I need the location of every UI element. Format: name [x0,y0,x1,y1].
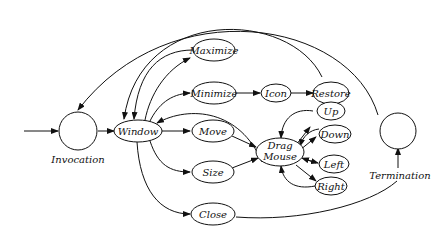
svg-text:Right: Right [316,181,346,192]
node-move: Move [192,120,234,142]
node-termination [380,113,416,149]
node-close: Close [191,203,235,225]
svg-text:Up: Up [324,106,339,117]
svg-text:Restore: Restore [310,88,350,99]
edge-dragmouse-right [296,165,316,181]
svg-text:Minimize: Minimize [190,88,238,99]
node-icon: Icon [261,84,291,102]
edge-up-dragmouse [281,110,313,138]
node-drag-mouse: Drag Mouse [256,138,304,166]
svg-text:Maximize: Maximize [189,45,239,56]
svg-text:Icon: Icon [264,88,287,99]
svg-text:Window: Window [118,126,159,137]
svg-text:Left: Left [323,159,345,170]
svg-text:Drag: Drag [266,140,292,151]
node-left: Left [319,155,349,173]
invocation-label: Invocation [50,154,104,165]
edge-window-minimize [150,93,190,121]
svg-text:Down: Down [319,129,349,140]
edge-window-size [150,141,190,172]
node-minimize: Minimize [190,82,238,104]
node-window: Window [114,120,162,142]
edge-move-dragmouse [232,136,256,147]
node-maximize: Maximize [189,39,239,61]
node-down: Down [319,125,351,143]
node-restore: Restore [310,82,350,104]
termination-label: Termination [369,170,430,181]
svg-text:Move: Move [198,126,227,137]
node-up: Up [317,102,345,120]
edge-size-dragmouse [232,158,258,168]
node-right: Right [315,177,347,195]
edge-window-close [137,142,190,214]
node-invocation [59,112,97,150]
svg-text:Close: Close [199,209,227,220]
edge-maximize-window [134,50,193,119]
node-size: Size [192,161,234,183]
state-diagram: Invocation Termination Window Maximize M… [0,0,444,242]
svg-text:Mouse: Mouse [262,151,297,162]
svg-text:Size: Size [202,167,223,178]
edge-left-dragmouse [302,158,316,163]
